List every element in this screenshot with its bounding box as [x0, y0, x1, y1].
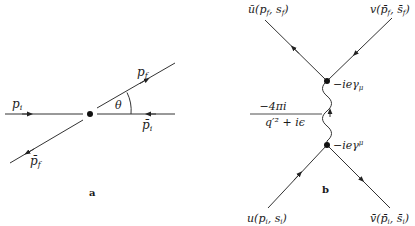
arrow-pbar-f: [27, 149, 34, 153]
label-pbar-f: p̄f: [30, 154, 43, 169]
arrow-p-f: [140, 80, 147, 84]
propagator-numerator: −4πi: [260, 100, 287, 113]
label-vertex-upper: −ieγμ: [333, 78, 364, 92]
propagator-denominator: q′² + iϵ: [265, 116, 305, 129]
theta-arc: [127, 93, 131, 115]
arrow-vbar-pbari: [356, 174, 362, 180]
caption-b: b: [322, 184, 329, 195]
vertex-upper: [324, 78, 330, 84]
arrow-v-pbarf: [355, 48, 361, 54]
vertex-a: [87, 111, 93, 117]
label-vbar-pbari-sbari: v̄(p̄i, s̄i): [370, 212, 409, 226]
arrow-ubar-pf: [293, 48, 299, 54]
panel-a: pi pf p̄i p̄f θ a: [5, 63, 175, 198]
label-u-pi-si: u(pi, si): [247, 212, 287, 226]
label-theta: θ: [115, 99, 122, 112]
line-p-f: [97, 63, 175, 108]
label-v-pbarf-sbarf: v(p̄f, s̄f): [370, 3, 410, 17]
arrow-u-pi: [294, 174, 300, 181]
feynman-diagrams: pi pf p̄i p̄f θ a ū(pf, sf) v(p̄f, s̄f) …: [0, 0, 415, 226]
label-ubar-pf-sf: ū(pf, sf): [248, 3, 289, 17]
caption-a: a: [89, 187, 96, 198]
label-pbar-i: p̄i: [142, 118, 153, 133]
label-p-f: pf: [137, 65, 150, 80]
label-p-i: pi: [12, 97, 23, 112]
line-pbar-f: [10, 120, 83, 163]
panel-b: ū(pf, sf) v(p̄f, s̄f) u(pi, si) v̄(p̄i, …: [247, 3, 410, 226]
vertex-lower: [324, 142, 330, 148]
label-vertex-lower: −ieγμ: [333, 139, 364, 152]
